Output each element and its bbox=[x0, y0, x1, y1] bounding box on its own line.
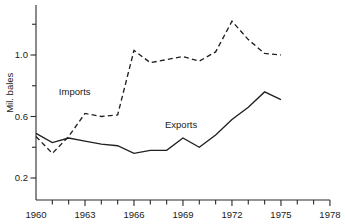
chart-axes bbox=[36, 5, 330, 200]
x-axis-tick-label: 1978 bbox=[319, 210, 340, 220]
x-axis-tick-label: 1966 bbox=[123, 210, 144, 220]
x-axis-tick-label: 1963 bbox=[74, 210, 95, 220]
series-annotation-exports: Exports bbox=[165, 120, 197, 130]
chart-plot-area bbox=[0, 0, 345, 224]
series-annotation-imports: Imports bbox=[59, 87, 91, 97]
chart-container: Mil. bales 1960196319661969197219751978 … bbox=[0, 0, 345, 224]
y-axis-tick-label: 1.0 bbox=[0, 50, 28, 60]
x-axis-tick-label: 1975 bbox=[270, 210, 291, 220]
x-axis-tick-label: 1960 bbox=[25, 210, 46, 220]
x-axis-tick-label: 1972 bbox=[221, 210, 242, 220]
chart-tick-marks bbox=[31, 24, 330, 206]
y-axis-tick-label: 0.2 bbox=[0, 173, 28, 183]
series-line-exports bbox=[36, 92, 281, 153]
y-axis-tick-label: 0.6 bbox=[0, 112, 28, 122]
x-axis-tick-label: 1969 bbox=[172, 210, 193, 220]
